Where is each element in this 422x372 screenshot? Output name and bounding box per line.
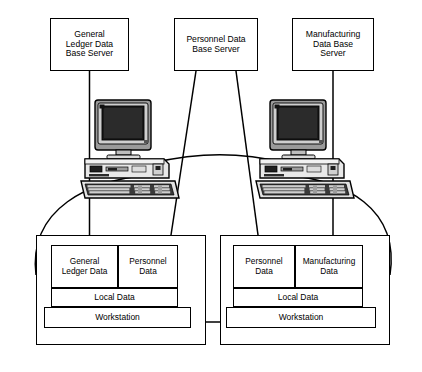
cell-personnel-data-left: Personnel Data: [118, 245, 178, 288]
workstation-label-left: Workstation: [95, 313, 140, 323]
desktop-computer-icon-left: [78, 99, 182, 203]
cell-manufacturing-data: Manufacturing Data: [295, 245, 363, 288]
network-diagram: General Ledger Data Base Server Personne…: [0, 0, 422, 372]
cell-personnel-data-right-label: Personnel Data: [245, 257, 282, 276]
manufacturing-server-label: Manufacturing Data Base Server: [306, 30, 360, 60]
desktop-computer-icon-right: [253, 99, 357, 203]
manufacturing-server-box: Manufacturing Data Base Server: [292, 18, 374, 71]
local-data-label-left: Local Data: [94, 293, 135, 303]
cell-personnel-data-left-label: Personnel Data: [129, 257, 166, 276]
general-ledger-server-label: General Ledger Data Base Server: [66, 30, 113, 60]
local-data-label-right: Local Data: [278, 293, 319, 303]
workstation-label-right: Workstation: [279, 313, 324, 323]
cell-general-ledger-data: General Ledger Data: [51, 245, 118, 288]
workstation-box-right: Workstation: [226, 307, 376, 328]
local-data-box-left: Local Data: [51, 288, 178, 307]
workstation-box-left: Workstation: [44, 307, 191, 328]
personnel-server-box: Personnel Data Base Server: [174, 18, 258, 71]
local-data-box-right: Local Data: [233, 288, 363, 307]
general-ledger-server-box: General Ledger Data Base Server: [50, 18, 129, 71]
personnel-server-label: Personnel Data Base Server: [186, 35, 245, 55]
cell-general-ledger-data-label: General Ledger Data: [62, 257, 108, 276]
cell-manufacturing-data-label: Manufacturing Data: [303, 257, 356, 276]
cell-personnel-data-right: Personnel Data: [233, 245, 295, 288]
